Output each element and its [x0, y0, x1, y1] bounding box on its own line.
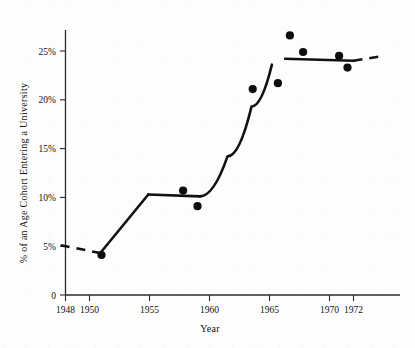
y-tick-label-20: 20%: [39, 95, 57, 105]
trend-segment-5: [354, 56, 384, 61]
x-tick-label-1972: 1972: [344, 305, 363, 315]
y-axis-tick-labels: 0 5% 10% 15% 20% 25%: [39, 47, 57, 301]
y-tick-label-25: 25%: [39, 47, 57, 57]
y-axis-title: % of an Age Cohort Entering a University: [18, 83, 29, 264]
trend-segment-2: [148, 194, 200, 196]
trend-segment-4: [285, 59, 353, 61]
y-tick-label-10: 10%: [39, 193, 57, 203]
scatter-plot: 0 5% 10% 15% 20% 25% 1948 1950 1955 1960…: [0, 0, 415, 348]
x-tick-label-1955: 1955: [140, 305, 159, 315]
trend-segment-3: [200, 65, 272, 197]
trend-segment-1: [100, 194, 148, 253]
y-tick-label-15: 15%: [39, 144, 57, 154]
data-points-group: [97, 31, 351, 259]
chart-container: 0 5% 10% 15% 20% 25% 1948 1950 1955 1960…: [0, 0, 415, 348]
x-tick-label-1970: 1970: [320, 305, 339, 315]
data-point: [179, 186, 187, 194]
y-axis-ticks: [60, 51, 66, 295]
data-point: [274, 79, 282, 87]
x-tick-label-1960: 1960: [200, 305, 219, 315]
x-tick-label-1950: 1950: [80, 305, 99, 315]
data-point: [299, 48, 307, 56]
data-point: [97, 251, 105, 259]
data-point: [286, 31, 294, 39]
data-point: [193, 202, 201, 210]
x-tick-label-1965: 1965: [260, 305, 279, 315]
data-point: [343, 63, 351, 71]
x-tick-label-1948: 1948: [56, 305, 75, 315]
trend-segment-0: [61, 245, 101, 253]
x-axis-tick-labels: 1948 1950 1955 1960 1965 1970 1972: [56, 305, 363, 315]
y-tick-label-0: 0: [51, 291, 56, 301]
data-point: [335, 52, 343, 60]
y-tick-label-5: 5%: [43, 242, 56, 252]
x-axis-ticks: [66, 295, 354, 301]
data-point: [249, 85, 257, 93]
trend-line-group: [61, 56, 384, 253]
x-axis-title: Year: [200, 323, 220, 334]
